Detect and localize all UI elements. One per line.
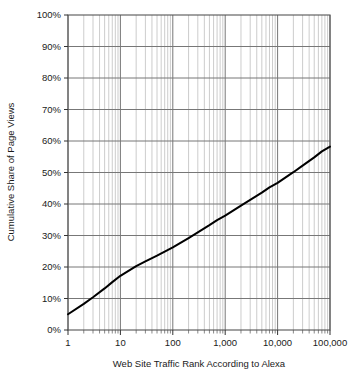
figure-caption-partial [0,373,357,385]
y-tick-label: 80% [42,72,62,83]
y-tick-label: 10% [42,293,62,304]
figure-container: 1101001,00010,000100,000 0%10%20%30%40%5… [0,0,357,385]
y-tick-label: 30% [42,230,62,241]
y-tick-label: 70% [42,104,62,115]
x-tick-label: 10 [115,337,126,348]
y-tick-label: 20% [42,261,62,272]
y-tick-label: 60% [42,135,62,146]
y-tick-label: 40% [42,198,62,209]
y-tick-label: 100% [37,9,62,20]
x-tick-label: 100,000 [313,337,347,348]
x-tick-label: 10,000 [263,337,292,348]
x-tick-label: 1 [65,337,70,348]
x-tick-label: 1,000 [213,337,237,348]
x-tick-label: 100 [165,337,181,348]
cumulative-share-line-chart: 1101001,00010,000100,000 0%10%20%30%40%5… [0,0,357,385]
x-axis-title: Web Site Traffic Rank According to Alexa [113,358,286,369]
y-axis-title: Cumulative Share of Page Views [5,102,16,241]
y-tick-label: 90% [42,41,62,52]
y-tick-label: 50% [42,167,62,178]
y-tick-label: 0% [47,324,61,335]
